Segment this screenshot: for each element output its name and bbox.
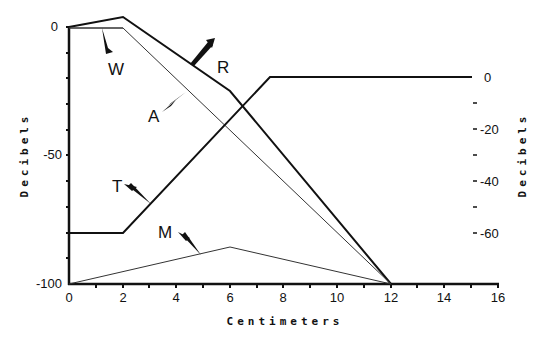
y-right-tick-40: -40 bbox=[480, 174, 499, 189]
curve-R bbox=[69, 17, 391, 284]
y-axis-title-left: Decibels bbox=[18, 113, 31, 198]
arrow-R-icon bbox=[190, 42, 213, 66]
x-tick-16: 16 bbox=[491, 290, 505, 305]
arrow-W-icon bbox=[102, 28, 113, 54]
y-left-tick-100: -100 bbox=[36, 276, 62, 291]
y-tick-labels-right: 0 -20 -40 -60 bbox=[480, 70, 499, 241]
chart: 0 2 4 6 8 10 12 14 16 0 -50 -100 0 -20 -… bbox=[0, 0, 546, 338]
y-axis-right-ticks bbox=[473, 103, 477, 233]
x-tick-2: 2 bbox=[119, 290, 126, 305]
label-R: R bbox=[217, 58, 229, 77]
y-right-tick-20: -20 bbox=[480, 122, 499, 137]
x-tick-6: 6 bbox=[226, 290, 233, 305]
x-tick-10: 10 bbox=[330, 290, 344, 305]
y-right-tick-60: -60 bbox=[480, 226, 499, 241]
y-left-tick-0: 0 bbox=[51, 19, 58, 34]
x-tick-14: 14 bbox=[437, 290, 451, 305]
x-tick-12: 12 bbox=[384, 290, 398, 305]
x-axis-title: Centimeters bbox=[227, 315, 344, 328]
y-left-tick-50: -50 bbox=[43, 147, 62, 162]
x-tick-4: 4 bbox=[172, 290, 179, 305]
label-M: M bbox=[158, 223, 172, 242]
curve-T bbox=[69, 77, 472, 233]
x-tick-labels: 0 2 4 6 8 10 12 14 16 bbox=[65, 290, 505, 305]
y-axis-title-right: Decibels bbox=[516, 113, 529, 198]
x-tick-8: 8 bbox=[279, 290, 286, 305]
y-tick-labels-left: 0 -50 -100 bbox=[36, 19, 62, 291]
label-W: W bbox=[108, 60, 124, 79]
label-T: T bbox=[112, 177, 122, 196]
y-right-tick-0: 0 bbox=[484, 70, 491, 85]
x-tick-0: 0 bbox=[65, 290, 72, 305]
curve-M bbox=[69, 247, 391, 284]
label-A: A bbox=[148, 107, 160, 126]
